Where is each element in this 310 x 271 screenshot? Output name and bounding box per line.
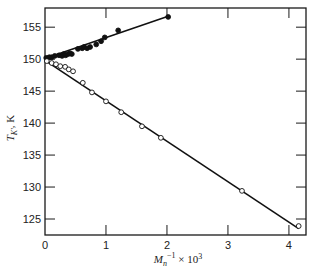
- ticks: 01234125130135140145150155: [23, 8, 306, 251]
- open-data-point: [80, 80, 85, 85]
- y-tick-label: 135: [23, 149, 41, 161]
- y-tick-label: 125: [23, 213, 41, 225]
- filled-data-point: [102, 35, 107, 40]
- filled-data-point: [69, 52, 74, 57]
- axes: [45, 8, 306, 235]
- y-axis-label: TK', K: [4, 115, 19, 142]
- filled-data-point: [94, 42, 99, 47]
- x-tick-label: 3: [225, 239, 231, 251]
- open-data-point: [104, 99, 109, 104]
- y-tick-label: 155: [23, 21, 41, 33]
- x-tick-label: 2: [164, 239, 170, 251]
- open-data-point: [240, 188, 245, 193]
- y-tick-label: 145: [23, 85, 41, 97]
- plot-frame: [45, 8, 306, 235]
- x-tick-label: 1: [103, 239, 109, 251]
- y-tick-label: 140: [23, 117, 41, 129]
- open-data-point: [119, 110, 124, 115]
- filled-data-point: [88, 45, 93, 50]
- open-data-point: [71, 69, 76, 74]
- filled-data-point: [166, 15, 171, 20]
- filled-data-point: [116, 28, 121, 33]
- chart: 01234125130135140145150155 Mn−1 × 103 TK…: [0, 0, 310, 271]
- data-points: [44, 15, 301, 229]
- open-data-point: [296, 224, 301, 229]
- y-tick-label: 130: [23, 181, 41, 193]
- x-axis-label: Mn−1 × 103: [153, 251, 202, 268]
- x-tick-label: 4: [286, 239, 292, 251]
- y-tick-label: 150: [23, 53, 41, 65]
- x-tick-label: 0: [42, 239, 48, 251]
- open-data-point: [158, 135, 163, 140]
- open-data-point: [140, 124, 145, 129]
- open-data-point: [44, 59, 49, 64]
- open-data-point: [58, 64, 63, 69]
- open-data-point: [90, 90, 95, 95]
- fit-line-open: [45, 60, 299, 228]
- filled-data-point: [99, 39, 104, 44]
